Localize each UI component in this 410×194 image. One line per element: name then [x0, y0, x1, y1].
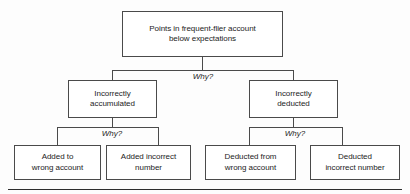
connector-right-drop-a [249, 127, 250, 145]
why-label-level1: Why? [182, 72, 224, 81]
node-incorrectly-deducted-line2: deducted [275, 99, 311, 110]
node-incorrectly-accumulated-line1: Incorrectly [90, 89, 135, 100]
node-deducted-from-wrong-account-line2: wrong account [225, 163, 277, 174]
node-deducted-from-wrong-account-line1: Deducted from [225, 152, 277, 163]
node-deducted-incorrect-number-line2: incorrect number [325, 163, 384, 174]
node-root-line2: below expectations [149, 34, 255, 45]
node-incorrectly-deducted-line1: Incorrectly [275, 89, 311, 100]
node-added-incorrect-number-line2: number [121, 163, 176, 174]
diagram-canvas: Points in frequent-flier account below e… [0, 0, 410, 194]
node-incorrectly-accumulated-line2: accumulated [90, 99, 135, 110]
why-label-level2-right: Why? [274, 129, 316, 138]
connector-level1-drop-left [112, 70, 113, 80]
why-label-level2-left: Why? [91, 129, 133, 138]
node-root-line1: Points in frequent-flier account [149, 24, 255, 35]
node-added-to-wrong-account-line1: Added to [32, 152, 83, 163]
node-incorrectly-accumulated: Incorrectly accumulated [68, 80, 157, 118]
connector-left-drop-a [57, 127, 58, 145]
node-deducted-from-wrong-account: Deducted from wrong account [205, 145, 296, 180]
connector-level1-bus [112, 70, 293, 71]
connector-right-bus [249, 127, 342, 128]
node-added-incorrect-number-line1: Added incorrect [121, 152, 176, 163]
node-added-to-wrong-account-line2: wrong account [32, 163, 83, 174]
connector-right-stem [293, 118, 294, 127]
node-added-incorrect-number: Added incorrect number [106, 145, 191, 180]
connector-left-stem [112, 118, 113, 127]
node-added-to-wrong-account: Added to wrong account [14, 145, 101, 180]
connector-level1-drop-right [293, 70, 294, 80]
node-deducted-incorrect-number-line1: Deducted [325, 152, 384, 163]
connector-right-drop-b [342, 127, 343, 145]
connector-left-bus [57, 127, 158, 128]
connector-left-drop-b [158, 127, 159, 145]
connector-root-stem [202, 57, 203, 70]
bottom-rule [8, 189, 402, 190]
node-incorrectly-deducted: Incorrectly deducted [249, 80, 338, 118]
node-deducted-incorrect-number: Deducted incorrect number [310, 145, 400, 180]
node-root: Points in frequent-flier account below e… [122, 11, 283, 57]
